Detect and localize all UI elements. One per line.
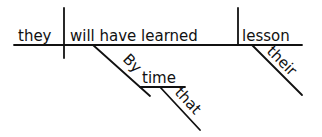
object-word: lesson: [242, 27, 290, 45]
subject-word: they: [18, 27, 52, 45]
sentence-diagram: they will have learned lesson their By t…: [0, 0, 322, 137]
verb-phrase: will have learned: [70, 27, 198, 45]
prep-object-word: time: [142, 69, 176, 87]
prep-object-modifier-word: that: [171, 83, 205, 118]
